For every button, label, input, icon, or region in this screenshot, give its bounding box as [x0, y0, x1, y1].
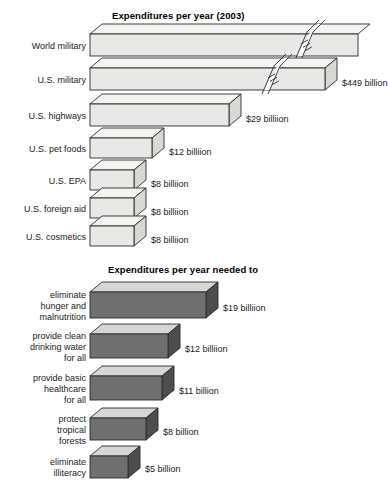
bar-front-face	[90, 198, 134, 218]
bar-value-label: $11 billion	[179, 386, 219, 397]
bar-front-face	[90, 170, 134, 190]
bar-value-label: $12 billiion	[169, 147, 212, 158]
row-category-label: U.S. EPA	[0, 176, 86, 187]
bar-3d	[90, 324, 186, 364]
row-category-label: U.S. foreign aid	[0, 204, 86, 215]
bar-3d	[90, 24, 376, 62]
row-category-label: U.S. military	[0, 75, 86, 86]
bar-value-label: $8 billion	[163, 427, 199, 438]
bar-3d	[90, 128, 170, 164]
section-title-needed: Expenditures per year needed to	[108, 264, 258, 275]
bar-front-face	[90, 292, 206, 318]
row-category-label: U.S. pet foods	[0, 144, 86, 155]
row-category-label: World military	[0, 41, 86, 52]
bar-value-label: $449 billion	[342, 78, 388, 89]
bar-front-face	[90, 226, 134, 246]
bar-top-face	[90, 24, 370, 34]
bar-front-face	[90, 334, 168, 358]
bar-top-face	[90, 94, 241, 104]
bar-3d	[90, 94, 247, 132]
row-category-label: protect tropical forests	[0, 414, 86, 447]
bar-top-face	[90, 282, 218, 292]
row-category-label: U.S. cosmetics	[0, 232, 86, 243]
bar-front-face	[90, 418, 146, 440]
bar-front-face	[90, 104, 229, 126]
row-category-label: provide clean drinking water for all	[0, 331, 86, 364]
bar-value-label: $8 billiion	[151, 235, 189, 246]
bar-front-face	[90, 34, 358, 56]
bar-top-face	[90, 366, 174, 376]
bar-value-label: $8 billiion	[151, 179, 189, 190]
bar-value-label: $12 billiion	[185, 344, 228, 355]
bar-3d	[90, 366, 180, 406]
bar-top-face	[90, 58, 337, 68]
bar-value-label: $19 billiion	[223, 303, 266, 314]
bar-3d	[90, 216, 152, 252]
bar-front-face	[90, 138, 152, 158]
bar-front-face	[90, 376, 162, 400]
row-category-label: provide basic healthcare for all	[0, 373, 86, 406]
bar-top-face	[90, 128, 164, 138]
row-category-label: eliminate illiteracy	[0, 457, 86, 479]
bar-value-label: $8 billiion	[151, 207, 189, 218]
bar-front-face	[90, 456, 128, 478]
bar-value-label: $29 billiion	[246, 114, 289, 125]
bar-3d	[90, 58, 343, 96]
row-category-label: U.S. highways	[0, 111, 86, 122]
bar-3d	[90, 446, 146, 484]
bar-top-face	[90, 324, 180, 334]
row-category-label: eliminate hunger and malnutrition	[0, 290, 86, 323]
bar-3d	[90, 408, 164, 446]
bar-3d	[90, 282, 224, 324]
section-title-actual: Expenditures per year (2003)	[112, 10, 245, 21]
bar-front-face	[90, 68, 325, 90]
bar-value-label: $5 billion	[145, 464, 181, 475]
